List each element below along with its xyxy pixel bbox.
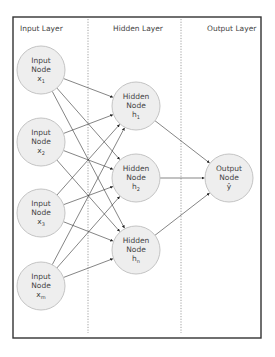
- hidden-node: HiddenNodeh1: [112, 82, 160, 130]
- connection-arrow: [155, 121, 210, 163]
- node-variable: ŷ: [227, 182, 232, 191]
- connection-arrow: [63, 259, 113, 278]
- input-node: InputNodexm: [17, 262, 65, 310]
- node-label-line2: Node: [126, 173, 146, 182]
- input-node: InputNodex1: [17, 46, 65, 94]
- node-label-line1: Output: [216, 164, 242, 173]
- input-node: InputNodex3: [17, 189, 65, 237]
- layer-label-input: Input Layer: [20, 24, 64, 33]
- hidden-node: HiddenNodeh2: [112, 154, 160, 202]
- node-label-line2: Node: [31, 137, 51, 146]
- layer-labels: Input Layer Hidden Layer Output Layer: [20, 24, 257, 33]
- node-label-line1: Hidden: [123, 164, 150, 173]
- layer-label-hidden: Hidden Layer: [113, 24, 164, 33]
- node-label-line2: Node: [126, 245, 146, 254]
- connection-arrow: [155, 193, 210, 235]
- node-label-line2: Node: [31, 281, 51, 290]
- hidden-node: HiddenNodehn: [112, 226, 160, 274]
- node-label-line1: Input: [31, 199, 50, 208]
- node-label-line1: Input: [31, 272, 50, 281]
- node-label-line2: Node: [31, 208, 51, 217]
- node-label-line1: Hidden: [123, 92, 150, 101]
- node-label-line2: Node: [126, 101, 146, 110]
- nodes: InputNodex1InputNodex2InputNodex3InputNo…: [17, 46, 253, 310]
- output-node: OutputNodeŷ: [205, 154, 253, 202]
- node-label-line1: Input: [31, 56, 50, 65]
- layer-label-output: Output Layer: [207, 24, 257, 33]
- node-label-line1: Input: [31, 128, 50, 137]
- node-label-line1: Hidden: [123, 236, 150, 245]
- node-label-line2: Node: [31, 65, 51, 74]
- node-label-line2: Node: [219, 173, 239, 182]
- input-node: InputNodex2: [17, 118, 65, 166]
- neural-network-diagram: Input Layer Hidden Layer Output Layer In…: [0, 0, 275, 357]
